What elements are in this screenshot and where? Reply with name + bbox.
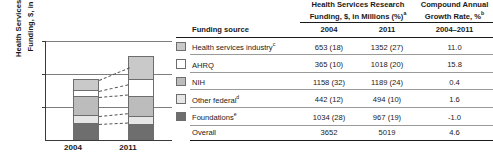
row-cagr-other-federal: 1.6 — [416, 90, 493, 108]
row-2004-other-federal: 442 (12) — [300, 90, 358, 108]
table-row: Other federald 442 (12) 494 (10) 1.6 — [176, 90, 493, 108]
row-2011-nih: 1189 (24) — [358, 72, 416, 90]
legend-swatch-cell-nih — [176, 72, 190, 90]
x-tick-label-2004: 2004 — [53, 143, 93, 152]
y-tick-6 — [42, 41, 46, 42]
y-axis-title-text: Health Services Research Funding, $, in … — [14, 0, 35, 57]
stacked-bar-chart: Health Services Research Funding, $, in … — [0, 0, 176, 160]
row-source-overall: Overall — [190, 125, 300, 140]
table-body: Health services industryc 653 (18) 1352 … — [176, 37, 493, 140]
column-header-2004: 2004 — [300, 23, 358, 38]
row-source-footnote-other-federal: d — [236, 94, 239, 100]
group-header-spacer-2 — [190, 0, 300, 23]
row-source-footnote-foundations: e — [234, 111, 237, 117]
y-tick-4 — [42, 74, 46, 75]
legend-swatch-cell-other-federal — [176, 90, 190, 108]
bar-2004 — [73, 79, 99, 140]
table-head: Health Services Research Funding, $, in … — [176, 0, 493, 37]
row-source-other-federal: Other federald — [190, 90, 300, 108]
connector-other-federal — [99, 122, 128, 125]
y-axis-title: Health Services Research Funding, $, in … — [14, 0, 38, 62]
group-header-funding-text: Health Services Research Funding, $, in … — [310, 0, 405, 21]
figure-root: Health Services Research Funding, $, in … — [0, 0, 493, 160]
legend-swatch-icon-ahrq — [176, 59, 186, 69]
table-row: AHRQ 365 (10) 1018 (20) 15.8 — [176, 55, 493, 73]
row-cagr-ahrq: 15.8 — [416, 55, 493, 73]
bar-2004-segment-other-federal — [73, 115, 99, 122]
column-header-swatch — [176, 23, 190, 38]
group-header-funding-footnote: a — [403, 10, 406, 16]
bar-2011-segment-ahrq — [128, 79, 154, 96]
group-header-cagr-footnote: b — [481, 10, 484, 16]
group-header-cagr: Compound Annual Growth Rate, %b — [416, 0, 493, 23]
funding-table: Health Services Research Funding, $, in … — [176, 0, 493, 141]
legend-swatch-cell-foundations — [176, 108, 190, 126]
row-source-foundations: Foundationse — [190, 108, 300, 126]
row-2011-foundations: 967 (19) — [358, 108, 416, 126]
bar-2011 — [128, 56, 154, 140]
funding-table-panel: Health Services Research Funding, $, in … — [176, 0, 493, 160]
row-source-text-other-federal: Other federal — [192, 95, 236, 104]
connector-nih — [99, 113, 128, 117]
row-cagr-health-services-industry: 11.0 — [416, 37, 493, 55]
group-header-funding: Health Services Research Funding, $, in … — [300, 0, 416, 23]
row-2004-overall: 3652 — [300, 125, 358, 140]
legend-swatch-icon-foundations — [176, 112, 186, 122]
group-header-spacer — [176, 0, 190, 23]
row-cagr-overall: 4.6 — [416, 125, 493, 140]
legend-swatch-icon-other-federal — [176, 94, 186, 104]
row-2011-overall: 5019 — [358, 125, 416, 140]
row-source-text-health-services-industry: Health services industry — [192, 43, 273, 52]
column-header-2011: 2011 — [358, 23, 416, 38]
row-2004-health-services-industry: 653 (18) — [300, 37, 358, 55]
y-tick-2 — [42, 107, 46, 108]
group-header-cagr-text: Compound Annual Growth Rate, % — [421, 0, 489, 21]
bar-2011-segment-other-federal — [128, 116, 154, 124]
bar-2004-segment-nih — [73, 96, 99, 115]
row-source-health-services-industry: Health services industryc — [190, 37, 300, 55]
bar-2004-segment-health-services-industry — [73, 79, 99, 90]
bar-2011-segment-nih — [128, 96, 154, 116]
column-header-cagr-range: 2004–2011 — [416, 23, 493, 38]
legend-swatch-cell-health-services-industry — [176, 37, 190, 55]
legend-swatch-cell-ahrq — [176, 55, 190, 73]
row-2004-foundations: 1034 (28) — [300, 108, 358, 126]
row-2011-ahrq: 1018 (20) — [358, 55, 416, 73]
table-row: NIH 1158 (32) 1189 (24) 0.4 — [176, 72, 493, 90]
row-source-text-foundations: Foundations — [192, 113, 234, 122]
y-axis-line — [45, 41, 46, 141]
bar-2011-segment-foundations — [128, 124, 154, 140]
row-2011-health-services-industry: 1352 (27) — [358, 37, 416, 55]
row-source-text-ahrq: AHRQ — [192, 60, 214, 69]
legend-swatch-icon-nih — [176, 77, 186, 87]
bar-2004-segment-foundations — [73, 123, 99, 140]
legend-swatch-icon-health-services-industry — [176, 42, 186, 52]
connector-health-services-industry — [99, 84, 129, 92]
table-row-overall: Overall 3652 5019 4.6 — [176, 125, 493, 140]
row-source-footnote-health-services-industry: c — [273, 41, 276, 47]
table-column-header-row: Funding source 2004 2011 2004–2011 — [176, 23, 493, 38]
row-cagr-nih: 0.4 — [416, 72, 493, 90]
gridline-6 — [45, 41, 172, 42]
row-source-text-overall: Overall — [192, 128, 216, 137]
table-group-header-row: Health Services Research Funding, $, in … — [176, 0, 493, 23]
table-row: Foundationse 1034 (28) 967 (19) -1.0 — [176, 108, 493, 126]
row-source-nih: NIH — [190, 72, 300, 90]
column-header-funding-source: Funding source — [190, 23, 300, 38]
row-2011-other-federal: 494 (10) — [358, 90, 416, 108]
row-2004-nih: 1158 (32) — [300, 72, 358, 90]
legend-swatch-cell-overall — [176, 125, 190, 140]
table-row: Health services industryc 653 (18) 1352 … — [176, 37, 493, 55]
bar-2011-segment-health-services-industry — [128, 56, 154, 79]
connector-ahrq — [99, 94, 128, 98]
row-source-text-nih: NIH — [192, 78, 205, 87]
row-2004-ahrq: 365 (10) — [300, 55, 358, 73]
x-tick-label-2011: 2011 — [108, 143, 148, 152]
row-source-ahrq: AHRQ — [190, 55, 300, 73]
row-cagr-foundations: -1.0 — [416, 108, 493, 126]
plot-area — [45, 41, 172, 141]
